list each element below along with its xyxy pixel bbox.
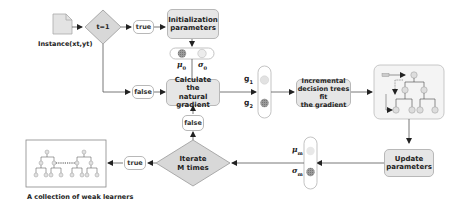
calc-gradient-line2: natural gradient	[167, 93, 219, 110]
init-params-line2: parameters	[170, 24, 216, 33]
update-params-box: Update parameters	[384, 149, 434, 177]
input-label: Instance(xt,yt)	[38, 40, 88, 49]
weak-learners-illustration	[26, 140, 106, 187]
edge-false-up: false	[182, 115, 204, 131]
sigma-m-label: σm	[292, 166, 303, 177]
iterate-label: Iterate M times	[173, 155, 213, 172]
decision-tree-illustration	[374, 65, 444, 119]
mu0-circle	[178, 49, 186, 57]
update-params-line1: Update	[395, 155, 424, 164]
sigma-m-circle	[306, 168, 314, 176]
init-params-capsule	[170, 48, 214, 59]
update-params-line2: parameters	[386, 163, 432, 172]
mu0-label: μ0	[177, 60, 186, 71]
init-params-box: Initialization parameters	[167, 9, 219, 39]
calc-gradient-box: Calculate the natural gradient	[166, 79, 220, 106]
edge-true-bottom: true	[124, 156, 146, 170]
init-params-line1: Initialization	[168, 16, 218, 25]
incremental-line2: decision trees fit	[297, 85, 350, 101]
g1-label: g1	[244, 74, 253, 85]
document-icon	[53, 14, 72, 34]
gradient-capsule	[258, 66, 271, 118]
g2-circle	[260, 99, 268, 107]
sigma0-circle	[198, 49, 206, 57]
sigma0-label: σ0	[198, 60, 207, 71]
weak-learners-caption: A collection of weak learners	[27, 193, 133, 201]
m-params-capsule	[304, 137, 317, 189]
g2-label: g2	[244, 98, 253, 109]
g1-circle	[260, 76, 268, 84]
edge-true-top: true	[133, 20, 154, 34]
mu-m-circle	[306, 147, 314, 155]
incremental-line1: Incremental	[301, 77, 345, 85]
mu-m-label: μm	[292, 145, 303, 156]
calc-gradient-line1: Calculate the	[167, 76, 219, 93]
decision-t1-label: t=1	[93, 23, 113, 32]
edge-false-left: false	[132, 85, 154, 99]
incremental-line3: the gradient	[301, 101, 347, 109]
incremental-trees-box: Incremental decision trees fit the gradi…	[296, 79, 351, 107]
